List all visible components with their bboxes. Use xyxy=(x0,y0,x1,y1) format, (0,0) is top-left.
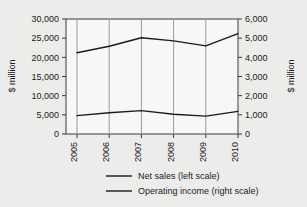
right-tick-label: 1,000 xyxy=(245,110,268,120)
line-chart: 05,00010,00015,00020,00025,00030,000 01,… xyxy=(0,0,307,207)
year-label-2009: 2009 xyxy=(198,142,208,162)
right-tick-label: 5,000 xyxy=(245,33,268,43)
right-tick-label: 4,000 xyxy=(245,53,268,63)
year-label-2007: 2007 xyxy=(133,142,143,162)
left-tick-label: 25,000 xyxy=(31,33,59,43)
left-tick-label: 0 xyxy=(54,129,59,139)
right-tick-label: 6,000 xyxy=(245,14,268,24)
right-tick-label: 2,000 xyxy=(245,91,268,101)
year-label-2008: 2008 xyxy=(166,142,176,162)
left-tick-label: 30,000 xyxy=(31,14,59,24)
legend-label-0: Net sales (left scale) xyxy=(138,171,220,181)
year-label-2006: 2006 xyxy=(101,142,111,162)
plot-area xyxy=(66,19,238,134)
left-tick-label: 20,000 xyxy=(31,53,59,63)
year-label-2005: 2005 xyxy=(69,142,79,162)
left-tick-label: 10,000 xyxy=(31,91,59,101)
chart-figure: 05,00010,00015,00020,00025,00030,000 01,… xyxy=(0,0,307,207)
left-tick-label: 15,000 xyxy=(31,72,59,82)
right-tick-label: 3,000 xyxy=(245,72,268,82)
left-axis-title: $ million xyxy=(7,59,17,92)
left-tick-label: 5,000 xyxy=(36,110,59,120)
right-axis-title: $ million xyxy=(286,59,296,92)
right-tick-label: 0 xyxy=(245,129,250,139)
legend-label-1: Operating income (right scale) xyxy=(138,186,259,196)
year-label-2010: 2010 xyxy=(230,142,240,162)
